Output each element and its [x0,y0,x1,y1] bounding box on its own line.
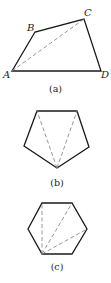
diagonal-ac [12,19,84,71]
pentagon-diagonal-1 [37,111,57,168]
vertex-label-b: B [26,22,34,33]
vertex-label-d: D [100,69,109,80]
pentagon-diagonal-2 [57,111,77,168]
caption-a: (a) [49,83,62,94]
polygon-diagonals-diagram: A B C D (a) (b) (c) [0,0,111,283]
caption-c: (c) [51,261,64,272]
pentagon [24,111,89,168]
caption-b: (b) [50,177,64,188]
hexagon-diagonal-2 [42,203,72,254]
vertex-label-c: C [84,7,92,18]
vertex-label-a: A [2,69,10,80]
quadrilateral-abcd [12,19,101,71]
figure-a: A B C D (a) [2,7,109,94]
figure-b: (b) [24,111,89,188]
figure-c: (c) [28,203,87,272]
